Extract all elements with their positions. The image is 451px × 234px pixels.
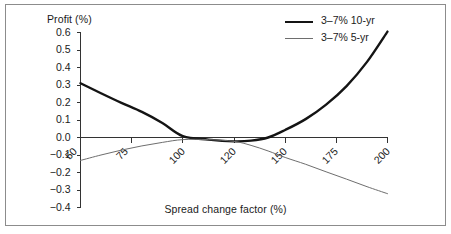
plot-area xyxy=(0,0,451,234)
axes-group xyxy=(77,33,388,208)
chart-figure: Profit (%) Spread change factor (%) 0.60… xyxy=(0,0,451,234)
legend-swatch-10yr-icon xyxy=(285,21,313,23)
legend-label-5yr: 3–7% 5-yr xyxy=(321,31,369,43)
legend-label-10yr: 3–7% 10-yr xyxy=(321,14,375,26)
series-line-5yr xyxy=(81,139,388,193)
legend-swatch-5yr-icon xyxy=(285,38,313,39)
series-group xyxy=(81,32,388,194)
series-line-10yr xyxy=(81,32,388,142)
